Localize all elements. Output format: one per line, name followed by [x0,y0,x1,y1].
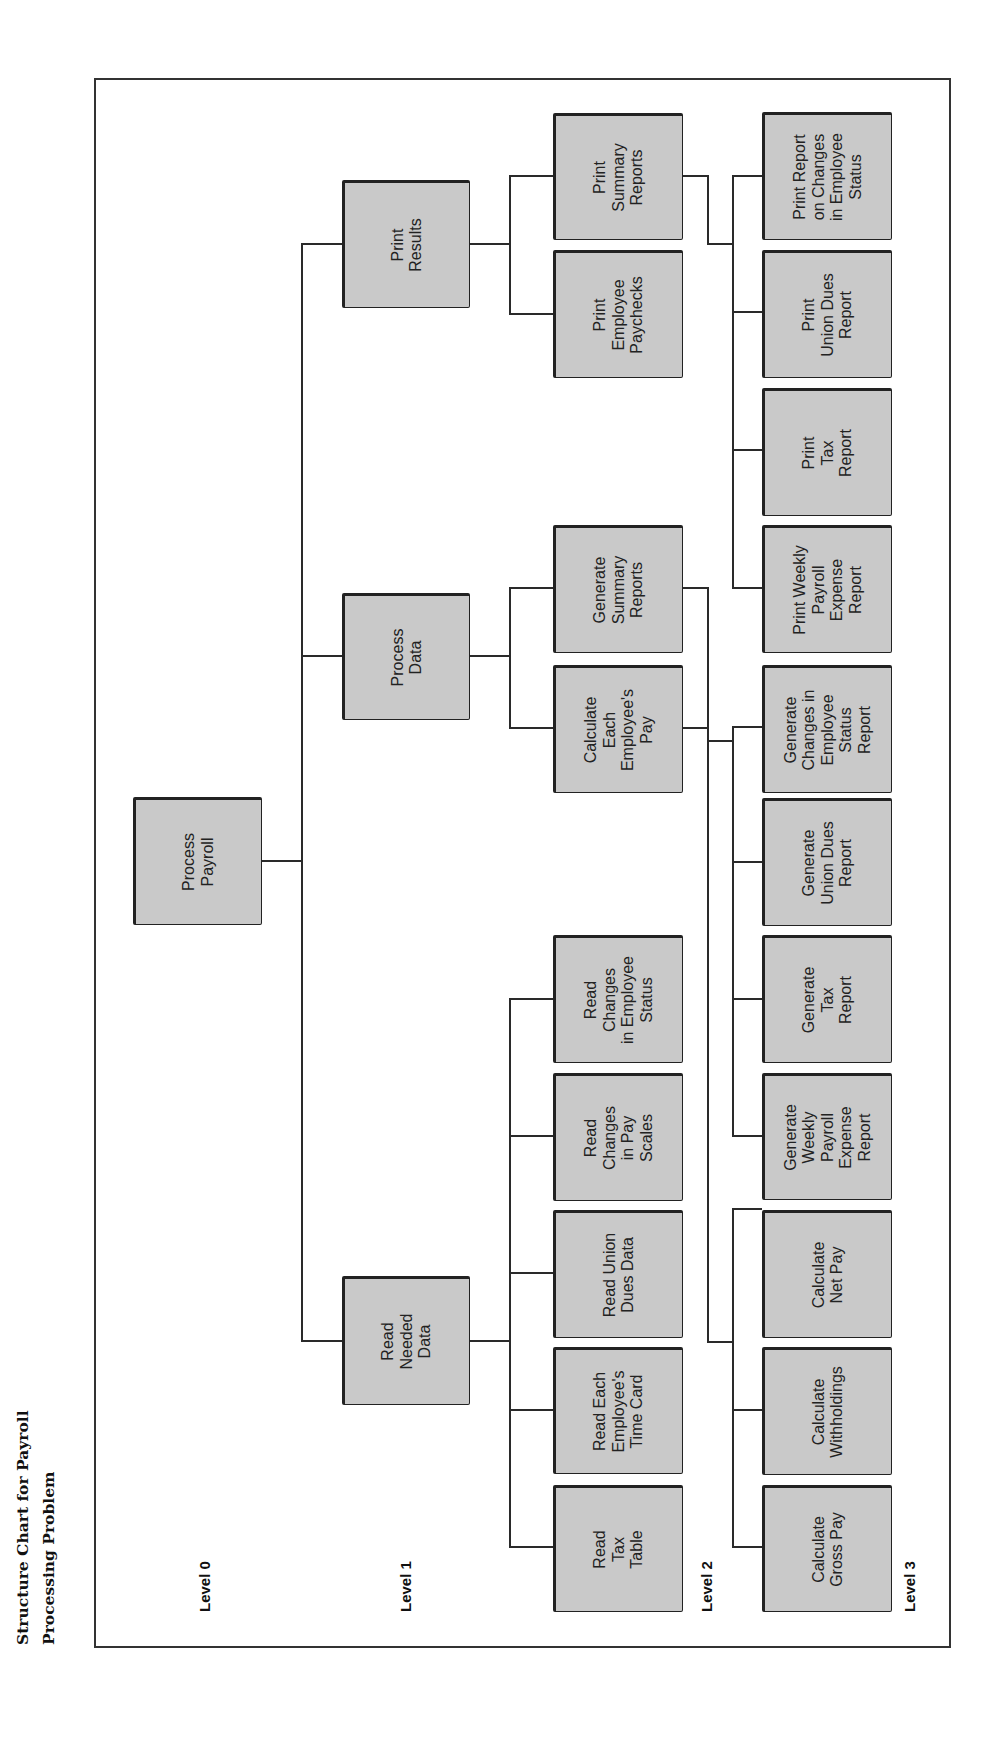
level-3-label: Level 3 [901,1561,918,1612]
connector [732,726,762,728]
box-calc-withholdings: Calculate Withholdings [762,1347,892,1475]
box-gen-status-changes: Generate Changes in Employee Status Repo… [762,665,892,793]
connector [470,1340,510,1342]
connector [732,1135,762,1137]
box-print-results: Print Results [342,180,470,308]
box-calc-net-pay: Calculate Net Pay [762,1210,892,1338]
connector [301,1340,342,1342]
connector [732,175,762,177]
connector [732,587,762,589]
calc-bus [732,1208,734,1548]
box-calc-employee-pay: Calculate Each Employee's Pay [553,665,683,793]
level-0-label: Level 0 [196,1561,213,1612]
figure-title: Structure Chart for Payroll Processing P… [10,1410,62,1645]
connector [707,175,709,245]
connector [470,243,510,245]
box-process-data: Process Data [342,593,470,720]
connector [732,311,762,313]
box-read-time-card: Read Each Employee's Time Card [553,1347,683,1474]
box-print-tax-report: Print Tax Report [762,388,892,516]
structure-chart-rotated: Structure Chart for Payroll Processing P… [0,0,1007,1753]
box-read-employee-status: Read Changes in Employee Status [553,935,683,1063]
connector [732,1546,762,1548]
print-summary-bus [732,175,734,589]
connector [301,243,342,245]
box-gen-union-dues: Generate Union Dues Report [762,798,892,926]
connector [509,998,553,1000]
box-gen-summary-reports: Generate Summary Reports [553,525,683,653]
connector [509,727,553,729]
generate-bus [732,726,734,1137]
box-print-summary-reports: Print Summary Reports [553,113,683,240]
connector [732,1208,762,1210]
connector [509,1272,553,1274]
connector [262,860,302,862]
box-print-paychecks: Print Employee Paychecks [553,250,683,378]
box-calc-gross-pay: Calculate Gross Pay [762,1485,892,1612]
connector [509,175,553,177]
connector [707,727,709,1343]
title-line-2: Processing Problem [36,1410,62,1645]
box-read-tax-table: Read Tax Table [553,1485,683,1612]
connector [470,655,510,657]
connector [509,587,553,589]
print-bus [509,175,511,315]
box-gen-tax-report: Generate Tax Report [762,935,892,1063]
box-gen-weekly-payroll: Generate Weekly Payroll Expense Report [762,1073,892,1200]
box-read-pay-scales: Read Changes in Pay Scales [553,1073,683,1201]
connector [683,587,708,589]
box-print-status-changes: Print Report on Changes in Employee Stat… [762,112,892,240]
connector [732,1409,762,1411]
level-2-label: Level 2 [698,1561,715,1612]
connector [732,998,762,1000]
connector [301,655,342,657]
title-line-1: Structure Chart for Payroll [10,1410,36,1645]
process-bus [509,587,511,729]
connector [707,243,733,245]
box-print-union-dues: Print Union Dues Report [762,250,892,378]
connector [707,587,709,742]
connector [683,727,708,729]
box-print-weekly-payroll: Print Weekly Payroll Expense Report [762,525,892,653]
connector [707,740,733,742]
level-1-bus [301,243,303,1342]
level-1-label: Level 1 [397,1561,414,1612]
connector [732,449,762,451]
box-read-union-dues: Read Union Dues Data [553,1210,683,1338]
box-process-payroll: Process Payroll [133,797,262,925]
connector [707,1341,733,1343]
connector [509,1135,553,1137]
box-read-needed-data: Read Needed Data [342,1276,470,1405]
connector [732,861,762,863]
connector [509,1409,553,1411]
connector [683,175,708,177]
connector [509,1546,553,1548]
connector [509,313,553,315]
